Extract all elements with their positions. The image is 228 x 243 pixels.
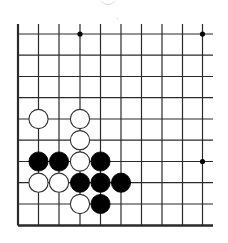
white-stone xyxy=(49,173,68,192)
board-grid xyxy=(18,24,213,226)
black-stone xyxy=(49,152,68,171)
black-stone xyxy=(91,194,110,213)
black-stone xyxy=(70,173,89,192)
white-stone xyxy=(70,131,89,150)
star-point xyxy=(200,31,205,36)
white-stone xyxy=(70,109,89,128)
black-stone xyxy=(91,152,110,171)
black-stone xyxy=(91,173,110,192)
white-stone xyxy=(70,152,89,171)
star-point xyxy=(77,31,82,36)
black-stone xyxy=(111,173,130,192)
white-stone xyxy=(29,109,48,128)
go-board[interactable] xyxy=(0,0,228,243)
white-stone xyxy=(70,194,89,213)
star-point xyxy=(200,159,205,164)
black-stone xyxy=(29,152,48,171)
white-stone xyxy=(29,173,48,192)
